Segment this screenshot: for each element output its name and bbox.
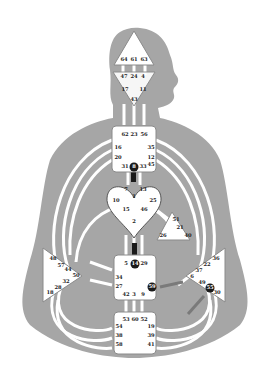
gate-2: 2 — [132, 218, 136, 224]
gate-63: 63 — [140, 56, 148, 62]
gate-36: 36 — [212, 255, 220, 261]
gate-52: 52 — [140, 316, 148, 322]
gate-64: 64 — [120, 56, 128, 62]
defined-channel-g-sacral — [132, 243, 137, 256]
gate-42: 42 — [122, 291, 130, 297]
gate-6: 6 — [190, 273, 194, 279]
gate-12: 12 — [147, 154, 155, 160]
gate-26: 26 — [159, 232, 167, 238]
gate-24: 24 — [130, 73, 138, 79]
gate-25: 25 — [149, 197, 157, 203]
gate-32: 32 — [62, 278, 70, 284]
gate-21: 21 — [176, 224, 184, 230]
gate-38: 38 — [115, 332, 123, 338]
gate-10: 10 — [112, 197, 120, 203]
gate-15: 15 — [122, 206, 130, 212]
gate-40: 40 — [184, 232, 192, 238]
gate-31: 31 — [121, 163, 129, 169]
defined-channel-throat-g — [131, 172, 136, 182]
gate-61: 61 — [130, 56, 138, 62]
gate-50: 50 — [72, 272, 80, 278]
gate-35: 35 — [147, 144, 155, 150]
gate-20: 20 — [114, 154, 122, 160]
gate-27: 27 — [115, 283, 123, 289]
gate-56: 56 — [140, 131, 148, 137]
gate-33: 33 — [139, 163, 147, 169]
gate-23: 23 — [130, 131, 138, 137]
gate-59: 59 — [148, 283, 156, 289]
gate-51: 51 — [172, 216, 180, 222]
gate-34: 34 — [115, 274, 123, 280]
bodygraph: 64 61 63 47 24 4 17 11 43 62 23 56 16 35… — [0, 0, 269, 382]
gate-5: 5 — [124, 260, 128, 266]
gate-4: 4 — [141, 73, 145, 79]
gate-43: 43 — [130, 96, 138, 102]
gate-37: 37 — [195, 267, 203, 273]
gate-39: 39 — [147, 332, 155, 338]
gate-18: 18 — [46, 289, 54, 295]
gate-14: 14 — [131, 260, 139, 266]
gate-29: 29 — [140, 260, 148, 266]
gate-8: 8 — [132, 163, 136, 169]
gate-13: 13 — [139, 186, 147, 192]
gate-16: 16 — [114, 144, 122, 150]
gate-9: 9 — [141, 291, 145, 297]
gate-60: 60 — [131, 316, 139, 322]
gate-11: 11 — [139, 86, 147, 92]
gate-30: 30 — [213, 289, 221, 295]
gate-1: 1 — [132, 193, 136, 199]
gate-53: 53 — [122, 316, 130, 322]
gate-3: 3 — [132, 291, 136, 297]
gate-62: 62 — [121, 131, 129, 137]
gate-58: 58 — [115, 341, 123, 347]
gate-44: 44 — [64, 266, 72, 272]
gate-19: 19 — [147, 323, 155, 329]
gate-48: 48 — [49, 255, 57, 261]
gate-22: 22 — [203, 261, 211, 267]
gate-41: 41 — [147, 341, 155, 347]
gate-28: 28 — [54, 284, 62, 290]
gate-46: 46 — [140, 206, 148, 212]
gate-17: 17 — [121, 86, 129, 92]
gate-7: 7 — [124, 186, 128, 192]
gate-54: 54 — [115, 323, 123, 329]
gate-45: 45 — [147, 161, 155, 167]
gate-49: 49 — [198, 279, 206, 285]
gate-47: 47 — [120, 73, 128, 79]
